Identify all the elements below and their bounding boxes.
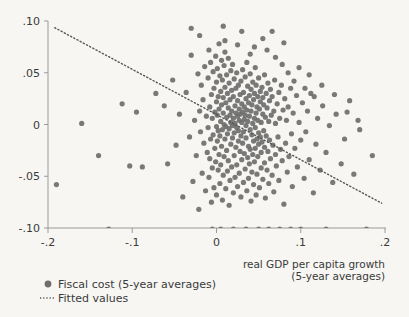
scatter-point — [249, 170, 254, 175]
scatter-point — [207, 104, 212, 109]
scatter-point — [274, 163, 279, 168]
scatter-point — [140, 164, 145, 169]
scatter-point — [217, 181, 222, 186]
scatter-point — [265, 149, 270, 154]
scatter-point — [216, 167, 221, 172]
scatter-point — [225, 168, 230, 173]
scatter-point — [294, 93, 299, 98]
scatter-point — [227, 81, 232, 86]
scatter-point — [302, 176, 307, 181]
scatter-point — [209, 200, 214, 205]
scatter-point — [210, 116, 215, 121]
scatter-point — [259, 85, 264, 90]
scatter-point — [201, 141, 206, 146]
scatter-point — [226, 56, 231, 61]
scatter-point — [221, 63, 226, 68]
scatter-point — [276, 90, 281, 95]
scatter-point — [264, 133, 269, 138]
scatter-point — [198, 129, 203, 134]
scatter-point — [219, 144, 224, 149]
y-tick-label: .05 — [23, 67, 41, 80]
scatter-point — [134, 109, 139, 114]
scatter-point — [224, 148, 229, 153]
scatter-point — [248, 87, 253, 92]
scatter-point — [253, 146, 258, 151]
x-tick-label: -.1 — [125, 236, 139, 249]
scatter-point — [232, 103, 237, 108]
scatter-point — [270, 94, 275, 99]
scatter-point — [213, 159, 218, 164]
scatter-point — [234, 162, 239, 167]
scatter-point — [259, 165, 264, 170]
scatter-point — [277, 116, 282, 121]
scatter-point — [266, 119, 271, 124]
scatter-plot-figure: -.10-.050.05.10-.2-.10.1.2real GDP per c… — [0, 0, 409, 317]
scatter-point — [199, 83, 204, 88]
scatter-point — [197, 108, 202, 113]
scatter-point — [235, 184, 240, 189]
scatter-point — [225, 131, 230, 136]
scatter-point — [153, 91, 158, 96]
scatter-point — [220, 197, 225, 202]
scatter-point — [285, 170, 290, 175]
scatter-point — [307, 157, 312, 162]
scatter-point — [170, 77, 175, 82]
scatter-point — [211, 69, 216, 74]
scatter-point — [252, 44, 257, 49]
scatter-point — [232, 76, 237, 81]
scatter-point — [233, 145, 238, 150]
scatter-point — [263, 195, 268, 200]
y-tick-label: -.10 — [19, 222, 40, 235]
scatter-point — [215, 66, 220, 71]
scatter-point — [221, 95, 226, 100]
scatter-point — [250, 152, 255, 157]
scatter-point — [330, 180, 335, 185]
scatter-point — [217, 133, 222, 138]
scatter-point — [190, 179, 195, 184]
scatter-point — [268, 87, 273, 92]
scatter-point — [165, 161, 170, 166]
scatter-point — [236, 128, 241, 133]
scatter-point — [225, 91, 230, 96]
scatter-point — [223, 100, 228, 105]
scatter-point — [248, 147, 253, 152]
scatter-point — [173, 143, 178, 148]
scatter-point — [214, 99, 219, 104]
scatter-point — [218, 89, 223, 94]
scatter-point — [320, 103, 325, 108]
scatter-point — [243, 135, 248, 140]
scatter-point — [205, 75, 210, 80]
scatter-point — [239, 29, 244, 34]
scatter-point — [355, 118, 360, 123]
x-tick-label: -.2 — [41, 236, 55, 249]
scatter-point — [238, 194, 243, 199]
scatter-point — [209, 92, 214, 97]
scatter-point — [276, 178, 281, 183]
scatter-point — [342, 136, 347, 141]
scatter-point — [272, 77, 277, 82]
scatter-point — [344, 109, 349, 114]
scatter-point — [246, 176, 251, 181]
scatter-point — [307, 72, 312, 77]
scatter-point — [96, 153, 101, 158]
scatter-point — [224, 72, 229, 77]
scatter-point — [254, 172, 259, 177]
scatter-point — [226, 158, 231, 163]
scatter-point — [247, 161, 252, 166]
scatter-point — [275, 134, 280, 139]
legend-label-fitted-values: Fitted values — [58, 292, 129, 305]
scatter-point — [271, 108, 276, 113]
scatter-point — [222, 49, 227, 54]
scatter-point — [241, 90, 246, 95]
scatter-point — [286, 104, 291, 109]
scatter-point — [263, 115, 268, 120]
scatter-point — [248, 71, 253, 76]
scatter-point — [223, 186, 228, 191]
scatter-point — [215, 138, 220, 143]
scatter-point — [351, 172, 356, 177]
scatter-point — [339, 161, 344, 166]
scatter-point — [221, 173, 226, 178]
scatter-point — [254, 111, 259, 116]
y-tick-label: 0 — [33, 119, 40, 132]
scatter-point — [270, 173, 275, 178]
